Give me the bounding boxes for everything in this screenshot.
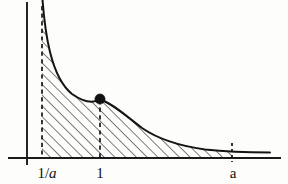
- axis-label-unit: 1: [96, 165, 104, 181]
- axis-label-lower-bound: 1/a: [37, 165, 56, 181]
- hyperbola-figure: 1/a 1 a: [0, 0, 288, 184]
- hatched-region: [38, 0, 238, 160]
- point-on-curve: [95, 94, 105, 104]
- axis-label-upper-bound: a: [230, 165, 237, 181]
- figure-container: 1/a 1 a: [0, 0, 288, 184]
